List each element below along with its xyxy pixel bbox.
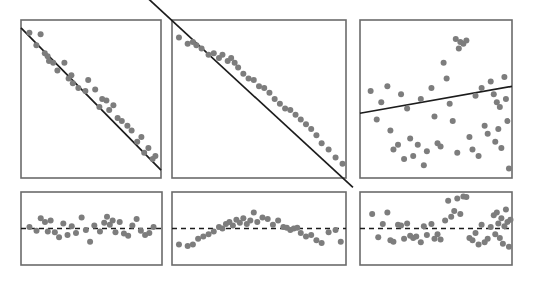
- data-point: [313, 132, 319, 138]
- data-point: [138, 134, 144, 140]
- data-point: [48, 217, 54, 223]
- data-point: [497, 104, 503, 110]
- data-point: [176, 34, 182, 40]
- data-point: [384, 83, 390, 89]
- data-point: [491, 91, 497, 97]
- data-point: [319, 240, 325, 246]
- data-point: [424, 148, 430, 154]
- data-point: [190, 242, 196, 248]
- data-point: [435, 231, 441, 237]
- data-point: [26, 224, 32, 230]
- plot-canvas: [0, 0, 535, 282]
- data-point: [91, 223, 97, 229]
- data-point: [485, 131, 491, 137]
- data-point: [85, 77, 91, 83]
- data-point: [326, 147, 332, 153]
- data-point: [270, 222, 276, 228]
- data-point: [129, 128, 135, 134]
- data-point: [256, 83, 262, 89]
- data-point: [298, 117, 304, 123]
- data-point: [211, 50, 217, 56]
- data-point: [26, 30, 32, 36]
- data-point: [251, 209, 257, 215]
- data-point: [488, 79, 494, 85]
- data-point: [293, 112, 299, 118]
- data-point: [96, 104, 102, 110]
- data-point: [407, 136, 413, 142]
- data-point: [485, 236, 491, 242]
- data-point: [387, 128, 393, 134]
- data-point: [463, 38, 469, 44]
- data-point: [266, 90, 272, 96]
- data-point: [56, 234, 62, 240]
- data-point: [374, 117, 380, 123]
- data-point: [501, 74, 507, 80]
- data-point: [251, 77, 257, 83]
- plot-layer: [21, 0, 513, 265]
- data-point: [340, 161, 346, 167]
- data-point: [495, 220, 501, 226]
- data-point: [428, 85, 434, 91]
- data-point: [101, 220, 107, 226]
- data-point: [404, 220, 410, 226]
- data-point: [395, 142, 401, 148]
- data-point: [45, 228, 51, 234]
- data-point: [146, 230, 152, 236]
- panel-3-residuals: [360, 192, 513, 265]
- data-point: [398, 223, 404, 229]
- data-point: [240, 215, 246, 221]
- data-point: [415, 142, 421, 148]
- data-point: [380, 221, 386, 227]
- data-point: [473, 93, 479, 99]
- data-point: [338, 239, 344, 245]
- data-point: [68, 72, 74, 78]
- data-point: [125, 233, 131, 239]
- data-point: [497, 235, 503, 241]
- data-point: [50, 60, 56, 66]
- data-point: [195, 236, 201, 242]
- data-point: [319, 140, 325, 146]
- data-point: [151, 224, 157, 230]
- data-point: [103, 98, 109, 104]
- data-point: [313, 237, 319, 243]
- data-point: [438, 143, 444, 149]
- panel-3-scatter: [360, 20, 512, 178]
- data-point: [193, 42, 199, 48]
- data-point: [134, 216, 140, 222]
- data-point: [185, 41, 191, 47]
- data-point: [473, 230, 479, 236]
- data-point: [506, 166, 512, 172]
- data-point: [421, 162, 427, 168]
- data-point: [199, 45, 205, 51]
- data-point: [272, 96, 278, 102]
- data-point: [469, 237, 475, 243]
- data-point: [503, 96, 509, 102]
- data-point: [378, 99, 384, 105]
- data-point: [421, 223, 427, 229]
- data-point: [384, 209, 390, 215]
- data-point: [450, 118, 456, 124]
- data-point: [444, 75, 450, 81]
- data-point: [254, 219, 260, 225]
- data-point: [457, 211, 463, 217]
- data-point: [448, 214, 454, 220]
- data-point: [498, 145, 504, 151]
- data-point: [73, 230, 79, 236]
- data-point: [498, 215, 504, 221]
- data-point: [69, 223, 75, 229]
- data-point: [428, 221, 434, 227]
- data-point: [211, 228, 217, 234]
- data-point: [413, 234, 419, 240]
- data-point: [438, 236, 444, 242]
- data-point: [442, 217, 448, 223]
- data-point: [83, 227, 89, 233]
- data-point: [240, 71, 246, 77]
- data-point: [441, 60, 447, 66]
- data-point: [454, 150, 460, 156]
- data-point: [110, 217, 116, 223]
- data-point: [390, 147, 396, 153]
- data-point: [185, 243, 191, 249]
- data-point: [303, 234, 309, 240]
- data-point: [466, 134, 472, 140]
- data-point: [65, 232, 71, 238]
